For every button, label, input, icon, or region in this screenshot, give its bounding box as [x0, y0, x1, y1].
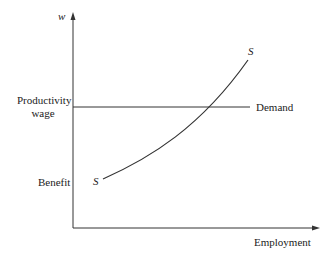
productivity-wage-line2: wage	[17, 107, 69, 120]
productivity-wage-label: Productivity wage	[17, 94, 69, 120]
benefit-label: Benefit	[38, 176, 70, 189]
supply-start-label: S	[93, 175, 99, 188]
x-axis-arrow-icon	[312, 226, 320, 231]
productivity-wage-line1: Productivity	[17, 94, 69, 107]
demand-label: Demand	[256, 101, 293, 114]
diagram-canvas	[0, 0, 334, 256]
y-axis-arrow-icon	[71, 12, 76, 20]
supply-end-label: S	[248, 45, 254, 58]
supply-curve	[103, 60, 248, 179]
y-axis-label: w	[58, 10, 65, 23]
x-axis-label: Employment	[254, 236, 311, 249]
